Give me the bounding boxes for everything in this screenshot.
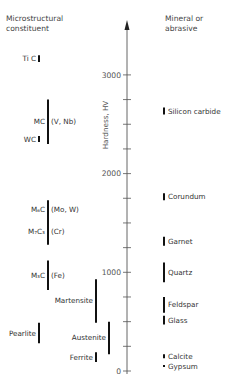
constituent-label: WC: [24, 135, 36, 144]
hardness-diagram: Microstructural constituent Mineral or a…: [0, 0, 235, 392]
mineral-label: Glass: [168, 316, 188, 325]
microstructural-bars: Ti CMC(V, Nb)WCM₆C(Mo, W)M₇C₃(Cr)M₃C(Fe)…: [9, 54, 109, 362]
mineral-label: Calcite: [168, 352, 193, 361]
axis-tick-label: 0: [116, 367, 121, 376]
constituent-label: Ferrite: [70, 353, 94, 362]
constituent-label: M₇C₃: [28, 227, 45, 236]
constituent-label: MC: [34, 117, 45, 126]
mineral-label: Corundum: [168, 192, 206, 201]
axis-tick-label: 2000: [102, 169, 121, 178]
y-axis-label: Hardness, HV: [101, 101, 110, 150]
left-header-line1: Microstructural: [6, 14, 63, 23]
constituent-element-label: (Fe): [51, 271, 65, 280]
axis-tick-label: 1000: [102, 268, 121, 277]
mineral-bars: Silicon carbideCorundumGarnetQuartzFelds…: [164, 107, 221, 371]
constituent-label: Martensite: [55, 296, 94, 305]
constituent-element-label: (V, Nb): [51, 117, 76, 126]
mineral-label: Quartz: [168, 268, 192, 277]
constituent-element-label: (Cr): [51, 227, 65, 236]
constituent-label: Pearlite: [9, 329, 37, 338]
constituent-element-label: (Mo, W): [51, 205, 79, 214]
constituent-label: M₆C: [31, 205, 45, 214]
constituent-label: Austenite: [72, 333, 107, 342]
mineral-label: Silicon carbide: [168, 107, 221, 116]
hardness-axis: 0100020003000: [102, 20, 131, 376]
mineral-label: Garnet: [168, 237, 193, 246]
constituent-label: Ti C: [22, 54, 36, 63]
mineral-label: Gypsum: [168, 362, 198, 371]
axis-arrow-icon: [125, 20, 130, 30]
constituent-label: M₃C: [31, 271, 45, 280]
right-header-line2: abrasive: [165, 24, 198, 33]
left-header-line2: constituent: [6, 24, 49, 33]
right-header-line1: Mineral or: [165, 14, 204, 23]
axis-tick-label: 3000: [102, 71, 121, 80]
mineral-label: Feldspar: [168, 300, 198, 309]
